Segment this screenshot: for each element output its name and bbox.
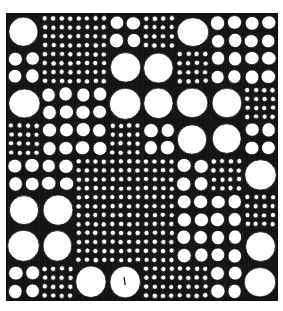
circle	[253, 213, 258, 218]
circle	[102, 248, 107, 253]
circle	[76, 159, 81, 164]
circle	[110, 195, 115, 200]
circle	[169, 285, 174, 290]
circle	[271, 97, 276, 102]
circle	[236, 186, 241, 191]
circle	[93, 195, 98, 200]
circle	[9, 89, 40, 118]
circle	[177, 88, 208, 118]
circle	[177, 230, 191, 244]
circle	[203, 293, 208, 298]
circle	[76, 33, 81, 38]
circle	[93, 177, 98, 182]
circle	[195, 79, 200, 84]
circle	[228, 52, 241, 66]
circle	[17, 150, 22, 155]
circle	[109, 33, 123, 48]
circle	[135, 230, 140, 235]
circle	[84, 168, 89, 173]
circle	[85, 230, 90, 235]
circle	[152, 266, 157, 271]
circle	[211, 186, 216, 191]
circle	[109, 88, 141, 119]
circle	[127, 231, 132, 236]
circle	[161, 267, 166, 272]
cell-large	[43, 195, 73, 225]
circle	[177, 79, 182, 84]
circle	[210, 16, 224, 31]
circle	[177, 284, 182, 289]
circle	[26, 266, 40, 280]
circle	[93, 212, 98, 217]
circle	[262, 16, 276, 29]
circle	[210, 213, 224, 227]
circle	[84, 239, 89, 244]
circle	[135, 168, 140, 173]
circle	[93, 52, 98, 57]
circle	[228, 159, 233, 164]
circle	[228, 213, 241, 227]
circle	[67, 34, 72, 39]
circle	[160, 248, 165, 253]
circle	[271, 195, 276, 200]
circle	[93, 87, 106, 101]
circle	[127, 159, 132, 164]
circle	[245, 114, 250, 119]
circle	[135, 257, 140, 262]
circle	[186, 51, 191, 56]
circle	[51, 79, 56, 84]
circle	[262, 221, 267, 226]
circle	[177, 18, 209, 47]
circle	[245, 105, 250, 110]
cell-large	[8, 230, 40, 261]
circle	[110, 159, 115, 164]
circle	[161, 204, 166, 209]
circle	[245, 221, 250, 226]
circle	[118, 203, 123, 208]
circle	[245, 123, 259, 136]
circle	[160, 221, 165, 226]
circle	[93, 78, 98, 83]
circle	[254, 195, 259, 200]
circle	[212, 35, 225, 48]
circle	[186, 293, 191, 298]
circle	[227, 16, 241, 30]
circle	[101, 52, 106, 57]
circle	[84, 186, 89, 191]
circle	[262, 88, 267, 93]
circle	[169, 177, 174, 182]
circle	[144, 222, 149, 227]
circle	[152, 204, 157, 209]
circle	[17, 123, 22, 128]
cell-large	[76, 266, 106, 298]
cell-large	[9, 89, 40, 118]
circle	[102, 230, 107, 235]
circle	[109, 249, 114, 254]
circle	[160, 159, 165, 164]
circle	[118, 168, 123, 173]
circle	[76, 222, 81, 227]
circle	[126, 204, 131, 209]
circle	[229, 33, 242, 47]
circle	[211, 70, 224, 83]
circle	[219, 168, 224, 173]
circle	[143, 176, 148, 181]
circle	[9, 17, 38, 46]
circle	[160, 43, 165, 48]
circle	[126, 17, 140, 30]
circle	[237, 159, 242, 164]
cell-large	[212, 124, 241, 154]
circle	[152, 25, 157, 30]
circle	[161, 240, 166, 245]
circle	[110, 16, 124, 29]
circle	[110, 257, 115, 262]
circle	[76, 123, 90, 137]
circle	[43, 33, 48, 38]
circle	[254, 106, 259, 111]
circle	[245, 203, 250, 208]
cell-large	[246, 232, 276, 262]
circle	[177, 266, 182, 271]
circle	[161, 230, 166, 235]
circle	[228, 168, 233, 173]
circle	[211, 196, 225, 209]
